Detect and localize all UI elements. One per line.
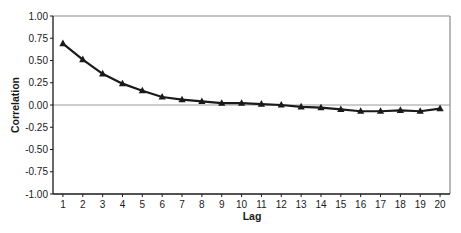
- series-line: [63, 44, 440, 112]
- x-tick-label: 6: [159, 199, 165, 210]
- y-tick-label: 0.25: [29, 77, 49, 88]
- triangle-marker-icon: [59, 40, 66, 47]
- correlation-chart: 1.000.750.500.250.00-0.25-0.50-0.75-1.00…: [0, 0, 461, 233]
- y-tick-label: 0.75: [29, 33, 49, 44]
- x-tick-label: 1: [60, 199, 66, 210]
- x-tick-label: 18: [395, 199, 407, 210]
- x-tick-label: 10: [236, 199, 248, 210]
- x-tick-label: 20: [435, 199, 447, 210]
- x-tick-label: 5: [140, 199, 146, 210]
- x-tick-label: 16: [355, 199, 367, 210]
- x-tick-label: 7: [179, 199, 185, 210]
- x-tick-label: 2: [80, 199, 86, 210]
- x-tick-label: 15: [335, 199, 347, 210]
- y-tick-label: -0.75: [25, 166, 48, 177]
- y-axis-title: Correlation: [9, 77, 21, 133]
- x-tick-label: 14: [315, 199, 327, 210]
- x-tick-label: 11: [256, 199, 267, 210]
- x-tick-label: 3: [100, 199, 106, 210]
- x-tick-label: 8: [199, 199, 205, 210]
- correlation-series: [59, 40, 443, 114]
- x-axis-title: Lag: [243, 210, 262, 222]
- x-tick-label: 17: [375, 199, 387, 210]
- x-tick-label: 12: [276, 199, 288, 210]
- y-tick-label: -1.00: [25, 189, 48, 200]
- y-tick-label: 0.50: [29, 55, 49, 66]
- x-tick-label: 19: [415, 199, 427, 210]
- y-axis: 1.000.750.500.250.00-0.25-0.50-0.75-1.00: [25, 11, 53, 200]
- x-tick-label: 9: [219, 199, 225, 210]
- x-tick-label: 4: [120, 199, 126, 210]
- y-tick-label: 1.00: [29, 11, 49, 22]
- y-tick-label: -0.50: [25, 144, 48, 155]
- x-tick-label: 13: [296, 199, 308, 210]
- x-axis: 1234567891011121314151617181920: [53, 194, 450, 210]
- y-tick-label: 0.00: [29, 100, 49, 111]
- y-tick-label: -0.25: [25, 122, 48, 133]
